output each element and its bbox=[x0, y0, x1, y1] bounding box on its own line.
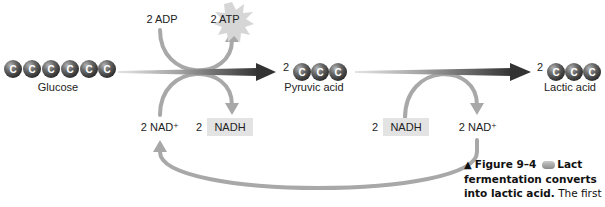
triangle-marker-icon: ▲ bbox=[464, 159, 472, 170]
svg-text:C: C bbox=[298, 67, 305, 78]
carbon-ball-icon: C bbox=[61, 60, 79, 78]
nadh-arrowhead-icon bbox=[225, 103, 239, 115]
svg-text:C: C bbox=[552, 67, 559, 78]
figure-number: Figure 9–4 bbox=[475, 158, 537, 170]
svg-text:C: C bbox=[334, 67, 341, 78]
carbon-ball-icon: C bbox=[98, 60, 116, 78]
adp-label: 2 ADP bbox=[146, 13, 177, 25]
caption-line-3-tail: The first bbox=[555, 187, 602, 199]
carbon-ball-icon: C bbox=[23, 60, 41, 78]
pyruvic-acid-label: Pyruvic acid bbox=[284, 81, 343, 93]
atp-label: 2 ATP bbox=[210, 13, 239, 25]
nadh-label-right: NADH bbox=[390, 121, 421, 133]
caption-line-3-bold: into lactic acid. bbox=[464, 187, 555, 199]
svg-text:C: C bbox=[66, 64, 73, 75]
adp-to-atp-loop-arrow bbox=[160, 30, 232, 70]
nadh-to-nad-loop-arrow bbox=[405, 74, 477, 118]
carbon-ball-icon: C bbox=[311, 63, 329, 81]
carbon-ball-icon: C bbox=[329, 63, 347, 81]
svg-text:C: C bbox=[47, 64, 54, 75]
svg-text:C: C bbox=[570, 67, 577, 78]
carbon-ball-icon: C bbox=[42, 60, 60, 78]
glucose-molecule: C C C C C C Glucose bbox=[4, 60, 116, 93]
carbon-ball-icon: C bbox=[80, 60, 98, 78]
fermentation-main-arrow bbox=[355, 63, 531, 81]
pyruvic-acid-molecule: 2 C C C Pyruvic acid bbox=[283, 61, 347, 93]
glycolysis-main-arrow bbox=[118, 63, 276, 81]
caption-line-2: fermentation converts bbox=[464, 172, 605, 186]
nadh-coefficient-left: 2 bbox=[196, 121, 202, 133]
nadh-label-left: NADH bbox=[214, 121, 245, 133]
lactic-acid-label: Lactic acid bbox=[544, 81, 596, 93]
carbon-ball-icon: C bbox=[565, 63, 583, 81]
nad-plus-arrowhead-icon bbox=[470, 103, 484, 115]
carbon-ball-icon: C bbox=[583, 63, 601, 81]
lactic-acid-molecule: 2 C C C Lactic acid bbox=[537, 61, 601, 93]
svg-text:C: C bbox=[588, 67, 595, 78]
caption-line-1: ▲Figure 9–4Lact bbox=[464, 157, 605, 172]
caption-line-3: into lactic acid. The first bbox=[464, 186, 605, 200]
nadh-coefficient-right: 2 bbox=[372, 121, 378, 133]
nad-to-nadh-loop-arrow bbox=[160, 74, 232, 115]
carbon-ball-icon: C bbox=[293, 63, 311, 81]
figure-caption: ▲Figure 9–4Lact fermentation converts in… bbox=[464, 157, 605, 200]
nad-recycle-loop-arrow bbox=[160, 140, 477, 188]
carbon-ball-icon: C bbox=[547, 63, 565, 81]
media-link-icon[interactable] bbox=[542, 161, 555, 169]
svg-text:C: C bbox=[85, 64, 92, 75]
pyruvic-coefficient: 2 bbox=[283, 61, 289, 73]
svg-text:C: C bbox=[316, 67, 323, 78]
nad-recycle-arrowhead-icon bbox=[153, 140, 167, 152]
nad-plus-label-right: 2 NAD⁺ bbox=[459, 121, 497, 133]
nad-plus-label-left: 2 NAD⁺ bbox=[141, 121, 179, 133]
svg-text:C: C bbox=[103, 64, 110, 75]
svg-text:C: C bbox=[28, 64, 35, 75]
lactic-coefficient: 2 bbox=[537, 61, 543, 73]
caption-title-start: Lact bbox=[557, 158, 582, 170]
glucose-label: Glucose bbox=[38, 81, 78, 93]
svg-text:C: C bbox=[9, 64, 16, 75]
carbon-ball-icon: C bbox=[4, 60, 22, 78]
